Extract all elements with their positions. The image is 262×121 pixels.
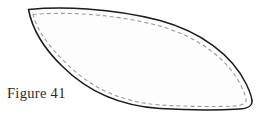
leaf-petal-diagram — [0, 0, 262, 121]
figure-caption: Figure 41 — [7, 84, 66, 102]
figure-canvas: Figure 41 — [0, 0, 262, 121]
